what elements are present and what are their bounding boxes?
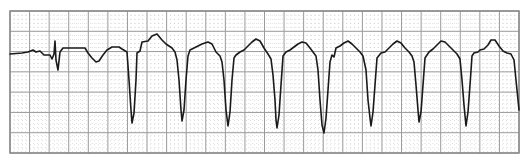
grid-major — [10, 11, 519, 153]
ecg-rhythm-strip — [0, 0, 527, 165]
